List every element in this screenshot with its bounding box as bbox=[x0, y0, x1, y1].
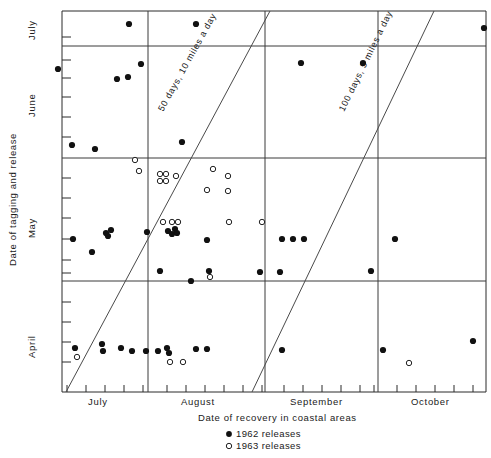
data-point bbox=[188, 278, 194, 284]
series-1963-releases bbox=[74, 157, 411, 365]
month-gridlines bbox=[62, 11, 486, 392]
data-point bbox=[144, 229, 150, 235]
data-point bbox=[160, 219, 165, 224]
data-point bbox=[225, 188, 230, 193]
data-point bbox=[163, 171, 168, 176]
data-point bbox=[125, 74, 131, 80]
x-month-label-october: October bbox=[411, 396, 450, 407]
x-axis-month-labels: July August September October bbox=[88, 396, 450, 407]
data-point bbox=[180, 359, 185, 364]
y-month-label-june: June bbox=[26, 94, 37, 117]
data-point bbox=[175, 219, 180, 224]
data-point bbox=[368, 268, 374, 274]
data-point bbox=[360, 60, 366, 66]
data-point bbox=[173, 173, 178, 178]
data-point bbox=[204, 346, 210, 352]
data-point bbox=[136, 168, 141, 173]
data-point bbox=[380, 347, 386, 353]
data-point bbox=[157, 268, 163, 274]
data-point bbox=[481, 25, 487, 31]
data-point bbox=[105, 233, 111, 239]
data-point bbox=[55, 66, 61, 72]
data-point bbox=[298, 60, 304, 66]
data-point bbox=[174, 230, 180, 236]
data-point bbox=[118, 345, 124, 351]
data-point bbox=[279, 347, 285, 353]
data-point bbox=[155, 348, 161, 354]
data-point bbox=[210, 166, 215, 171]
x-month-label-july: July bbox=[88, 396, 108, 407]
data-point bbox=[207, 274, 212, 279]
data-point bbox=[392, 236, 398, 242]
data-point bbox=[290, 236, 296, 242]
legend-marker-open-circle-icon bbox=[226, 443, 231, 448]
data-point bbox=[129, 348, 135, 354]
legend-label-1962: 1962 releases bbox=[236, 428, 301, 439]
data-point bbox=[72, 345, 78, 351]
data-point bbox=[204, 187, 209, 192]
reference-line-50-days-label: 50 days, 10 miles a day bbox=[156, 11, 218, 113]
chart-page: 50 days, 10 miles a day 100 days, 5 mile… bbox=[0, 0, 491, 458]
data-point bbox=[126, 21, 132, 27]
data-point bbox=[169, 219, 174, 224]
legend: 1962 releases 1963 releases bbox=[226, 428, 301, 451]
data-point bbox=[204, 237, 210, 243]
data-point bbox=[92, 146, 98, 152]
data-point bbox=[114, 76, 120, 82]
plot-frame bbox=[62, 11, 486, 392]
data-point bbox=[138, 61, 144, 67]
data-point bbox=[193, 346, 199, 352]
y-month-label-april: April bbox=[26, 335, 37, 358]
data-point bbox=[163, 178, 168, 183]
reference-line-50-days bbox=[66, 11, 270, 392]
legend-label-1963: 1963 releases bbox=[236, 440, 301, 451]
data-point bbox=[193, 21, 199, 27]
y-axis-ticks bbox=[62, 37, 71, 362]
data-point bbox=[406, 360, 411, 365]
reference-line-100-days bbox=[252, 11, 434, 392]
data-point bbox=[166, 350, 172, 356]
y-month-label-may: May bbox=[26, 218, 37, 238]
data-point bbox=[99, 341, 105, 347]
x-axis-ticks bbox=[67, 385, 473, 392]
data-point bbox=[132, 157, 137, 162]
data-point bbox=[225, 173, 230, 178]
data-point bbox=[69, 142, 75, 148]
data-point bbox=[179, 139, 185, 145]
series-1962-releases bbox=[55, 21, 487, 356]
data-point bbox=[470, 338, 476, 344]
data-point bbox=[89, 249, 95, 255]
data-point bbox=[100, 348, 106, 354]
data-point bbox=[157, 171, 162, 176]
x-month-label-august: August bbox=[181, 396, 215, 407]
x-axis-title: Date of recovery in coastal areas bbox=[198, 412, 357, 423]
data-point bbox=[279, 236, 285, 242]
data-point bbox=[70, 236, 76, 242]
data-point bbox=[257, 269, 263, 275]
data-point bbox=[157, 178, 162, 183]
data-point bbox=[167, 359, 172, 364]
y-axis-title: Date of tagging and release bbox=[7, 133, 18, 266]
reference-lines bbox=[66, 11, 434, 392]
data-point bbox=[301, 236, 307, 242]
y-axis-month-labels: July June May April bbox=[26, 20, 37, 358]
reference-line-100-days-label: 100 days, 5 miles a day bbox=[337, 9, 394, 113]
data-point bbox=[143, 348, 149, 354]
data-point bbox=[108, 227, 114, 233]
data-point bbox=[74, 354, 79, 359]
scatter-plot-figure: 50 days, 10 miles a day 100 days, 5 mile… bbox=[0, 0, 491, 458]
data-point bbox=[226, 219, 231, 224]
y-month-label-july: July bbox=[26, 20, 37, 40]
legend-marker-filled-circle-icon bbox=[226, 431, 232, 437]
data-point bbox=[259, 219, 264, 224]
data-point bbox=[277, 269, 283, 275]
x-month-label-september: September bbox=[290, 396, 343, 407]
data-point bbox=[206, 268, 212, 274]
